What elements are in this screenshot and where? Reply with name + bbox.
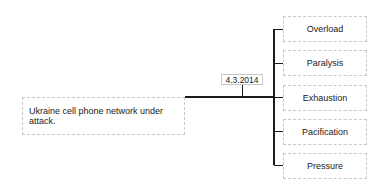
branch-label: Overload <box>307 24 344 34</box>
date-label: 4.3.2014 <box>221 74 263 85</box>
branch-label: Pacification <box>302 127 348 137</box>
main-connector <box>185 96 274 98</box>
date-tick <box>242 85 243 97</box>
branch-label: Pressure <box>307 161 343 171</box>
branch-node-pressure: Pressure <box>283 153 367 179</box>
branch-connector-3 <box>274 97 283 98</box>
branch-label: Exhaustion <box>303 93 348 103</box>
branch-connector-2 <box>274 63 283 64</box>
branch-connector-4 <box>274 131 283 132</box>
branch-connector-1 <box>274 29 283 30</box>
root-node: Ukraine cell phone network under attack. <box>22 97 185 135</box>
branch-node-paralysis: Paralysis <box>283 50 367 76</box>
branch-node-pacification: Pacification <box>283 119 367 145</box>
branch-connector-5 <box>274 165 283 166</box>
root-node-label: Ukraine cell phone network under attack. <box>29 106 184 126</box>
branch-label: Paralysis <box>307 58 344 68</box>
branch-node-exhaustion: Exhaustion <box>283 85 367 111</box>
branch-node-overload: Overload <box>283 16 367 42</box>
